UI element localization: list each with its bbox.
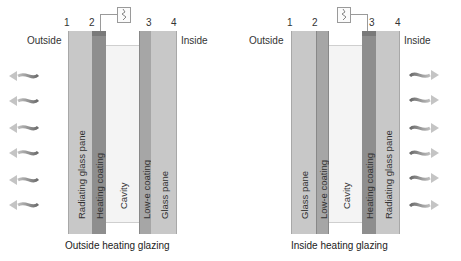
layer-label: Glass pane (158, 171, 169, 219)
heat-radiation-arrow-icon (408, 146, 440, 160)
heat-radiation-arrow-icon (8, 121, 40, 135)
layer-glass-pane: Glass pane (151, 31, 177, 234)
layer-low-e-coating: Low-e coating (139, 31, 151, 234)
layer-low-e-coating: Low-e coating (316, 31, 329, 234)
layer-label: Cavity (117, 183, 128, 209)
surface-number-3: 3 (146, 17, 152, 28)
heating-element-icon (117, 7, 131, 23)
heat-radiation-arrow-icon (408, 121, 440, 135)
surface-number-1: 1 (287, 17, 293, 28)
heat-radiation-arrow-icon (8, 198, 40, 212)
cavity-spacer-top (106, 31, 139, 46)
heat-radiation-arrow-icon (408, 198, 440, 212)
surface-number-4: 4 (171, 17, 177, 28)
heat-radiation-arrow-icon (8, 146, 40, 160)
cavity-spacer-bottom (106, 222, 139, 234)
heating-element-icon (337, 7, 351, 23)
surface-number-1: 1 (64, 17, 70, 28)
layer-label: Radiating glass pane (75, 130, 86, 219)
surface-number-3: 3 (369, 17, 375, 28)
layer-cavity: Cavity (106, 31, 139, 234)
layer-radiating-glass-pane: Radiating glass pane (68, 31, 92, 234)
layer-label: Heating coating (94, 153, 105, 219)
layer-label: Radiating glass pane (382, 130, 393, 219)
inside-label: Inside (181, 35, 208, 46)
layer-label: Low-e coating (317, 160, 328, 219)
layer-radiating-glass-pane: Radiating glass pane (376, 31, 400, 234)
inside-label: Inside (404, 35, 431, 46)
outside-label: Outside (27, 35, 61, 46)
caption-inside-heating-glazing: Inside heating glazing (291, 240, 388, 251)
surface-number-2: 2 (312, 17, 318, 28)
layer-heating-coating: Heating coating (92, 31, 106, 234)
caption-outside-heating-glazing: Outside heating glazing (65, 240, 170, 251)
heat-radiation-arrow-icon (408, 68, 440, 82)
outside-label: Outside (249, 35, 283, 46)
layer-heating-coating: Heating coating (362, 31, 376, 234)
heat-radiation-arrow-icon (408, 171, 440, 185)
cavity-spacer-bottom (329, 222, 362, 234)
layer-glass-pane: Glass pane (291, 31, 316, 234)
layer-label: Glass pane (299, 171, 310, 219)
heat-radiation-arrow-icon (408, 93, 440, 107)
cavity-spacer-top (329, 31, 362, 46)
heat-radiation-arrow-icon (8, 69, 40, 83)
heater-wire (100, 14, 118, 32)
heater-wire (351, 14, 368, 32)
heat-radiation-arrow-icon (8, 173, 40, 187)
surface-number-2: 2 (89, 17, 95, 28)
heat-radiation-arrow-icon (8, 94, 40, 108)
layer-label: Heating coating (364, 153, 375, 219)
layer-label: Cavity (340, 183, 351, 209)
surface-number-4: 4 (395, 17, 401, 28)
layer-label: Low-e coating (140, 160, 151, 219)
layer-cavity: Cavity (329, 31, 362, 234)
